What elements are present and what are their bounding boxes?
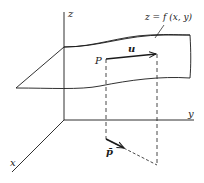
surface-top-edge (64, 35, 190, 47)
directional-derivative-diagram: z y x z = f (x, y) P u p̄ (0, 0, 204, 183)
x-axis-label: x (10, 157, 16, 168)
surface-label: z = f (x, y) (144, 12, 193, 22)
y-axis-label: y (187, 108, 194, 119)
z-axis-label: z (67, 8, 74, 19)
x-axis (12, 120, 64, 172)
surface-label-leader (155, 25, 164, 38)
vector-u-label: u (128, 43, 135, 54)
projected-vector-label: p̄ (106, 146, 113, 157)
point-P-label: P (94, 55, 102, 66)
vector-u-arrow (106, 54, 156, 59)
surface-patch (16, 35, 191, 89)
figure-canvas: z y x z = f (x, y) P u p̄ (0, 0, 204, 183)
